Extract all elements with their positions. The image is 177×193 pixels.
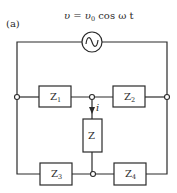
impedance-z4: Z4: [114, 163, 146, 185]
node-center-top: [90, 95, 95, 100]
node-right: [165, 95, 170, 100]
node-center-bottom: [91, 172, 96, 177]
source-equation: υ = υ0 cos ω t: [64, 10, 134, 23]
svg-text:Z: Z: [88, 130, 95, 141]
ac-source-icon: [82, 32, 102, 52]
current-label: i: [96, 102, 99, 113]
circuit-diagram: (a) υ = υ0 cos ω t i Z1 Z2: [0, 0, 177, 193]
impedance-z: Z: [83, 119, 102, 152]
panel-label: (a): [6, 18, 20, 29]
node-left: [15, 95, 20, 100]
current-arrow-icon: [89, 107, 95, 114]
impedance-z1: Z1: [39, 86, 71, 107]
impedance-z3: Z3: [40, 163, 72, 185]
impedance-z2: Z2: [113, 86, 145, 107]
